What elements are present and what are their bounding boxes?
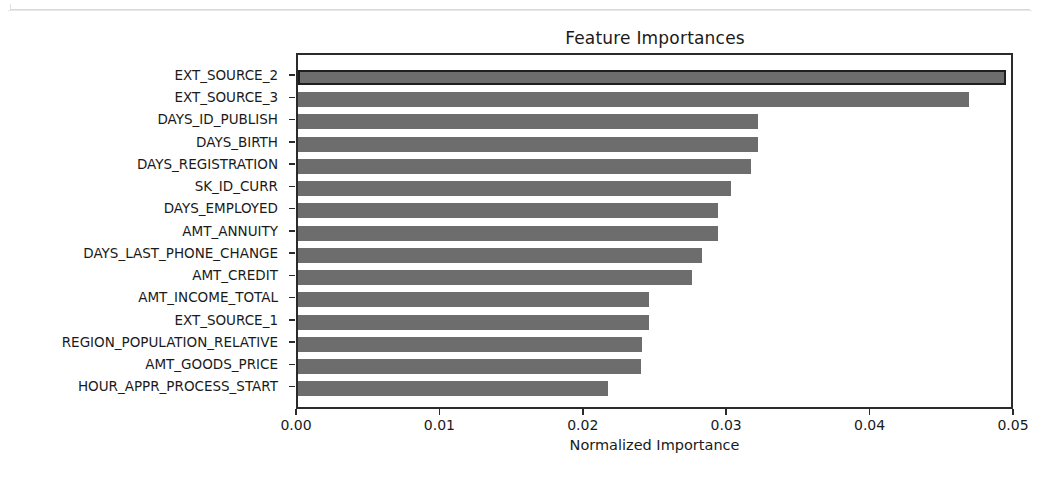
bar-fill xyxy=(298,292,649,307)
y-tick-mark xyxy=(289,230,295,232)
feature-importances-figure: Feature Importances EXT_SOURCE_2EXT_SOUR… xyxy=(0,0,1042,493)
bar-fill xyxy=(298,137,758,152)
y-axis-labels: EXT_SOURCE_2EXT_SOURCE_3DAYS_ID_PUBLISHD… xyxy=(0,53,288,409)
y-tick-mark xyxy=(289,364,295,366)
x-tick-mark xyxy=(295,409,297,415)
x-tick-mark xyxy=(439,409,441,415)
bar-hour-appr-process-start xyxy=(298,381,608,396)
y-tick-mark xyxy=(289,208,295,210)
y-tick-mark xyxy=(289,319,295,321)
y-axis-label-hour-appr-process-start: HOUR_APPR_PROCESS_START xyxy=(78,379,278,394)
bar-ext-source-3 xyxy=(298,92,969,107)
y-tick-mark xyxy=(289,97,295,99)
y-axis-label-sk-id-curr: SK_ID_CURR xyxy=(195,179,278,194)
y-axis-label-amt-goods-price: AMT_GOODS_PRICE xyxy=(145,357,278,372)
y-tick-mark xyxy=(289,74,295,76)
bar-fill xyxy=(298,248,702,263)
y-axis-label-amt-credit: AMT_CREDIT xyxy=(192,268,278,283)
y-axis-label-days-id-publish: DAYS_ID_PUBLISH xyxy=(157,112,278,127)
chart-title: Feature Importances xyxy=(296,28,1014,48)
y-tick-mark xyxy=(289,252,295,254)
bar-fill xyxy=(298,381,608,396)
x-tick-label: 0.00 xyxy=(280,417,311,433)
y-axis-label-days-employed: DAYS_EMPLOYED xyxy=(164,201,278,216)
x-tick-mark xyxy=(582,409,584,415)
x-tick-label: 0.04 xyxy=(854,417,885,433)
bar-fill xyxy=(298,226,718,241)
bar-amt-annuity xyxy=(298,226,718,241)
y-axis-label-region-population-relative: REGION_POPULATION_RELATIVE xyxy=(62,335,278,350)
bar-fill xyxy=(298,114,758,129)
y-axis-label-ext-source-3: EXT_SOURCE_3 xyxy=(174,90,278,105)
y-tick-mark xyxy=(289,186,295,188)
x-tick-mark xyxy=(1012,409,1014,415)
bar-days-registration xyxy=(298,159,751,174)
y-tick-mark xyxy=(289,297,295,299)
y-tick-mark xyxy=(289,386,295,388)
bar-fill xyxy=(298,92,969,107)
y-axis-label-days-last-phone-change: DAYS_LAST_PHONE_CHANGE xyxy=(83,246,278,261)
y-tick-mark xyxy=(289,275,295,277)
y-axis-label-days-birth: DAYS_BIRTH xyxy=(196,135,278,150)
x-tick-label: 0.02 xyxy=(567,417,598,433)
bar-fill xyxy=(298,359,641,374)
y-axis-label-ext-source-2: EXT_SOURCE_2 xyxy=(174,68,278,83)
bar-ext-source-1 xyxy=(298,315,649,330)
x-tick-label: 0.03 xyxy=(711,417,742,433)
x-tick-label: 0.01 xyxy=(424,417,455,433)
bar-fill xyxy=(298,159,751,174)
bar-fill xyxy=(298,203,718,218)
y-tick-mark xyxy=(289,119,295,121)
bar-region-population-relative xyxy=(298,337,642,352)
bar-fill xyxy=(298,181,731,196)
y-axis-label-ext-source-1: EXT_SOURCE_1 xyxy=(174,313,278,328)
x-axis-title: Normalized Importance xyxy=(296,437,1013,453)
bar-series xyxy=(298,55,1011,407)
plot-area xyxy=(296,53,1013,409)
bar-amt-credit xyxy=(298,270,692,285)
bar-days-employed xyxy=(298,203,718,218)
scan-artifact-line-secondary xyxy=(8,10,1032,11)
bar-fill xyxy=(298,337,642,352)
y-axis-label-amt-annuity: AMT_ANNUITY xyxy=(182,224,278,239)
x-tick-label: 0.05 xyxy=(997,417,1028,433)
bar-fill xyxy=(298,315,649,330)
bar-amt-income-total xyxy=(298,292,649,307)
y-axis-label-amt-income-total: AMT_INCOME_TOTAL xyxy=(138,290,278,305)
bar-fill xyxy=(298,70,1006,85)
y-axis-label-days-registration: DAYS_REGISTRATION xyxy=(137,157,278,172)
bar-fill xyxy=(298,270,692,285)
x-tick-mark xyxy=(725,409,727,415)
bar-ext-source-2 xyxy=(298,70,1006,85)
y-tick-mark xyxy=(289,163,295,165)
bar-days-birth xyxy=(298,137,758,152)
y-tick-mark xyxy=(289,341,295,343)
x-tick-mark xyxy=(869,409,871,415)
bar-amt-goods-price xyxy=(298,359,641,374)
y-tick-mark xyxy=(289,141,295,143)
bar-days-last-phone-change xyxy=(298,248,702,263)
bar-sk-id-curr xyxy=(298,181,731,196)
bar-days-id-publish xyxy=(298,114,758,129)
